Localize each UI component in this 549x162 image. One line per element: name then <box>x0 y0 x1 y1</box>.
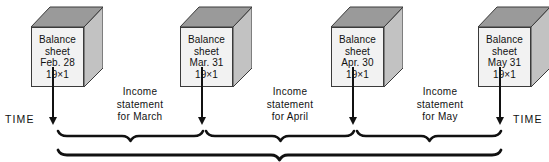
cube-top-face <box>478 6 549 28</box>
cube-text-line1: Balance <box>39 34 76 46</box>
income-statement-label-march: Income statement for March <box>92 86 188 124</box>
bracket-march <box>58 131 203 141</box>
balance-sheet-cube-may: Balance sheet May 31 19×1 <box>478 6 549 88</box>
timeline-diagram: Balance sheet Feb. 28 19×1 Balance sheet… <box>0 0 549 162</box>
arrow-head <box>49 117 57 125</box>
time-arrow-feb <box>49 67 58 125</box>
cube-text-line2: sheet <box>345 46 370 58</box>
cube-text-line2: sheet <box>492 46 517 58</box>
income-label-line1: Income <box>392 86 488 99</box>
bracket-april <box>206 131 354 141</box>
cube-top-face <box>180 6 252 28</box>
bracket-total <box>58 150 501 160</box>
income-label-line1: Income <box>92 86 188 99</box>
income-label-line3: for May <box>392 111 488 124</box>
balance-sheet-cube-mar: Balance sheet Mar. 31 19×1 <box>180 6 252 88</box>
cube-text-line1: Balance <box>339 34 376 46</box>
bracket-may <box>357 131 501 141</box>
cube-text-line2: sheet <box>194 46 219 58</box>
arrow-shaft <box>201 67 203 117</box>
income-statement-label-may: Income statement for May <box>392 86 488 124</box>
arrow-head <box>496 117 504 125</box>
cube-text-line1: Balance <box>188 34 225 46</box>
cube-top-face <box>331 6 403 28</box>
income-label-line2: statement <box>242 99 338 112</box>
time-arrow-mar <box>198 67 207 125</box>
income-label-line1: Income <box>242 86 338 99</box>
time-arrow-apr <box>349 67 358 125</box>
balance-sheet-cube-apr: Balance sheet Apr. 30 19×1 <box>331 6 403 88</box>
arrow-head <box>349 117 357 125</box>
arrow-shaft <box>499 67 501 117</box>
arrow-shaft <box>352 67 354 117</box>
income-label-line2: statement <box>92 99 188 112</box>
arrow-head <box>198 117 206 125</box>
time-arrow-may <box>496 67 505 125</box>
time-label-right: TIME <box>513 113 542 125</box>
income-label-line2: statement <box>392 99 488 112</box>
income-label-line3: for April <box>242 111 338 124</box>
income-statement-label-april: Income statement for April <box>242 86 338 124</box>
cube-top-face <box>31 6 103 28</box>
balance-sheet-cube-feb: Balance sheet Feb. 28 19×1 <box>31 6 103 88</box>
arrow-shaft <box>52 67 54 117</box>
income-label-line3: for March <box>92 111 188 124</box>
time-label-left: TIME <box>5 113 34 125</box>
cube-text-line2: sheet <box>45 46 70 58</box>
cube-text-line1: Balance <box>486 34 523 46</box>
